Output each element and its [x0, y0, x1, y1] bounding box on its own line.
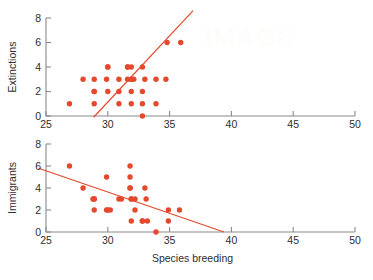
- data-point: [140, 89, 145, 94]
- y-tick-label: 6: [35, 36, 41, 48]
- immigrants-plot-svg: 25303540455002468ImmigrantsSpecies breed…: [0, 140, 373, 280]
- y-tick-label: 8: [35, 140, 41, 150]
- y-tick-label: 0: [35, 110, 41, 122]
- data-point: [104, 174, 109, 179]
- x-tick-label: 45: [287, 234, 299, 246]
- data-point: [80, 185, 85, 190]
- data-point: [153, 77, 158, 82]
- data-point: [145, 218, 150, 223]
- x-tick-label: 30: [102, 234, 114, 246]
- immigrants-scatter-chart: 25303540455002468ImmigrantsSpecies breed…: [0, 140, 373, 280]
- data-point: [105, 64, 110, 69]
- data-point: [166, 218, 171, 223]
- y-axis-title: Immigrants: [6, 162, 18, 214]
- y-tick-label: 6: [35, 160, 41, 172]
- x-tick-label: 35: [164, 118, 176, 130]
- x-tick-label: 25: [40, 234, 52, 246]
- data-point: [127, 185, 132, 190]
- data-point: [153, 101, 158, 106]
- immigrants-data-points: [67, 163, 182, 234]
- x-tick-label: 40: [226, 234, 238, 246]
- x-tick-label: 50: [349, 118, 361, 130]
- data-point: [92, 207, 97, 212]
- data-point: [153, 229, 158, 234]
- data-point: [92, 77, 97, 82]
- data-point: [105, 89, 110, 94]
- data-point: [177, 207, 182, 212]
- data-point: [131, 77, 136, 82]
- data-point: [108, 207, 113, 212]
- immigrants-axes: [46, 144, 355, 232]
- data-point: [129, 64, 134, 69]
- data-point: [143, 196, 148, 201]
- data-point: [178, 40, 183, 45]
- data-point: [80, 77, 85, 82]
- x-tick-label: 40: [226, 118, 238, 130]
- data-point: [127, 163, 132, 168]
- data-point: [67, 163, 72, 168]
- data-point: [132, 207, 137, 212]
- y-tick-label: 8: [35, 12, 41, 24]
- extinctions-axes: [46, 18, 355, 116]
- x-tick-label: 35: [164, 234, 176, 246]
- y-tick-label: 0: [35, 226, 41, 238]
- y-tick-label: 4: [35, 61, 41, 73]
- x-tick-label: 30: [102, 118, 114, 130]
- data-point: [142, 77, 147, 82]
- data-point: [127, 174, 132, 179]
- data-point: [92, 101, 97, 106]
- data-point: [140, 101, 145, 106]
- x-tick-label: 50: [349, 234, 361, 246]
- data-point: [116, 77, 121, 82]
- y-tick-label: 2: [35, 204, 41, 216]
- y-tick-label: 4: [35, 182, 41, 194]
- data-point: [163, 77, 168, 82]
- data-point: [140, 113, 145, 118]
- data-point: [142, 185, 147, 190]
- data-point: [67, 101, 72, 106]
- extinctions-data-points: [67, 40, 184, 119]
- y-axis-title: Extinctions: [6, 42, 18, 93]
- data-point: [116, 101, 121, 106]
- data-point: [92, 89, 97, 94]
- x-tick-label: 45: [287, 118, 299, 130]
- data-point: [92, 196, 97, 201]
- data-point: [140, 218, 145, 223]
- extinctions-scatter-chart: 25303540455002468Extinctions: [0, 0, 373, 140]
- x-tick-label: 25: [40, 118, 52, 130]
- extinctions-axis-labels: 25303540455002468Extinctions: [6, 12, 361, 130]
- extinctions-plot-svg: 25303540455002468Extinctions: [0, 0, 373, 140]
- y-tick-label: 2: [35, 85, 41, 97]
- x-axis-title: Species breeding: [152, 252, 233, 264]
- data-point: [129, 101, 134, 106]
- data-point: [104, 77, 109, 82]
- data-point: [129, 218, 134, 223]
- immigrants-axis-labels: 25303540455002468ImmigrantsSpecies breed…: [6, 140, 361, 264]
- data-point: [129, 89, 134, 94]
